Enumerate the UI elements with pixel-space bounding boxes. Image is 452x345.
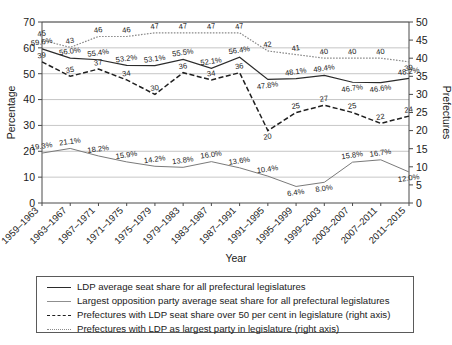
data-point-label: 30 [150,83,160,93]
data-point-label: 47 [206,21,216,31]
data-point-label: 47 [178,21,188,31]
data-point-label: 43 [65,36,75,46]
legend-swatch-solid-line-icon [45,282,71,292]
y-tick-label-left: 70 [23,16,35,28]
legend-swatch-dotted-line-icon [45,324,71,334]
data-point-label: 13.8% [172,154,195,166]
legend-item-opposition-average: Largest opposition party average seat sh… [45,294,413,307]
data-point-label: 46.7% [341,82,364,94]
legend-label: LDP average seat share for all prefectur… [77,281,306,292]
legend-label: Largest opposition party average seat sh… [77,295,390,306]
y-tick-label-right: 45 [416,34,428,46]
data-point-label: 45 [37,29,47,39]
data-point-label: 40 [319,47,329,57]
data-point-label: 56.0% [59,45,82,57]
data-point-label: 25 [291,101,301,111]
legend-item-over-50-percent: Prefectures with LDP seat share over 50 … [45,308,413,321]
data-point-label: 36 [178,61,188,71]
legend-item-ldp-average: LDP average seat share for all prefectur… [45,280,413,293]
data-point-label: 6.4% [287,187,306,198]
data-point-label: 15.9% [115,149,138,161]
data-point-label: 24 [404,105,414,115]
data-point-label: 14.2% [143,153,166,165]
y-tick-label-left: 10 [23,171,35,183]
data-point-label: 39 [404,63,414,73]
y-axis-title-right: Prefectures [441,86,452,140]
y-tick-label-right: 0 [416,197,422,209]
data-point-label: 20 [263,132,273,142]
data-point-label: 47.8% [256,79,279,91]
y-tick-label-right: 20 [416,124,428,136]
data-point-label: 21.1% [59,135,82,147]
data-point-label: 48.1% [284,66,307,78]
chart-legend: LDP average seat share for all prefectur… [36,276,414,333]
data-point-label: 53.2% [115,52,138,64]
data-point-label: 55.4% [87,47,110,59]
data-point-label: 10.4% [256,163,279,175]
series-line-over-50-percent [42,62,409,131]
data-point-label: 46 [122,25,132,35]
y-tick-label-left: 40 [23,93,35,105]
data-point-label: 25 [347,101,357,111]
data-point-label: 34 [122,68,132,78]
data-point-label: 35 [65,65,75,75]
data-point-label: 19.3% [30,140,53,152]
data-point-label: 40 [376,47,386,57]
y-tick-label-left: 50 [23,68,35,80]
data-point-label: 42 [263,39,273,49]
y-tick-label-right: 40 [416,52,428,64]
y-tick-label-right: 15 [416,143,428,155]
legend-label: Prefectures with LDP as largest party in… [77,323,339,334]
data-point-label: 8.0% [315,183,334,194]
data-point-label: 41 [291,43,301,53]
y-tick-label-right: 30 [416,88,428,100]
legend-swatch-thin-line-icon [45,296,71,306]
data-point-label: 47 [150,21,160,31]
data-point-label: 39 [37,50,47,60]
y-tick-label-right: 50 [416,16,428,28]
legend-item-largest-party: Prefectures with LDP as largest party in… [45,322,413,335]
legend-swatch-dashed-line-icon [45,310,71,320]
y-tick-label-right: 10 [416,161,428,173]
data-point-label: 47 [234,21,244,31]
data-point-label: 27 [319,94,329,104]
data-point-label: 40 [347,47,357,57]
data-point-label: 46 [93,25,103,35]
data-point-label: 22 [376,112,386,122]
x-axis-title: Year [225,252,247,264]
data-point-label: 16.7% [369,147,392,159]
data-point-label: 56.4% [228,44,251,56]
y-tick-label-left: 30 [23,119,35,131]
data-point-label: 53.1% [143,53,166,65]
data-point-label: 37 [93,58,103,68]
data-point-label: 18.2% [87,143,110,155]
data-point-label: 36 [234,61,244,71]
data-point-label: 13.6% [228,155,251,167]
data-point-label: 55.5% [172,47,195,59]
data-point-label: 15.8% [341,149,364,161]
data-point-label: 49.4% [313,62,336,74]
data-point-label: 34 [206,68,216,78]
data-point-label: 16.0% [200,149,223,161]
y-tick-label-right: 25 [416,106,428,118]
data-point-label: 46.6% [369,83,392,95]
y-axis-title-left: Percentage [5,85,17,139]
legend-label: Prefectures with LDP seat share over 50 … [77,309,390,320]
